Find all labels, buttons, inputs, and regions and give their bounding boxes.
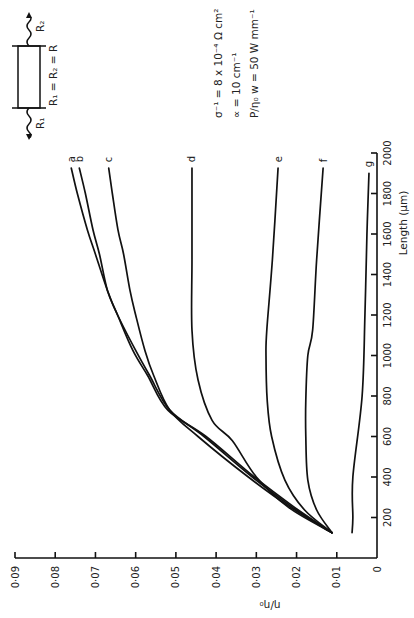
curve-e: [266, 168, 332, 533]
curve-f: [306, 168, 332, 533]
laser-cavity-diagram: R₁ R₂ R₁ = R₂ = R: [12, 12, 59, 140]
curve-c: [109, 168, 332, 533]
label-r-equation: R₁ = R₂ = R: [47, 45, 59, 106]
x-tick-label: 1400: [382, 262, 393, 287]
curve-label-e: e: [273, 156, 284, 162]
param-power: P/η₀ w = 50 W mm⁻¹: [248, 9, 260, 118]
label-r1: R₁: [34, 117, 46, 129]
param-absorption: ∝ = 10 cm⁻¹: [230, 53, 242, 118]
curve-label-c: c: [103, 157, 114, 163]
x-tick-label: 800: [382, 386, 393, 405]
y-tick-label: 0·02: [291, 566, 302, 588]
y-tick-label: 0·03: [251, 566, 262, 588]
x-tick-label: 400: [382, 467, 393, 486]
output-arrow-left: [27, 108, 31, 138]
curve-label-d: d: [186, 156, 197, 162]
y-tick-label: 0·07: [90, 566, 101, 588]
x-tick-label: 200: [382, 508, 393, 527]
curve-label-g: g: [363, 161, 374, 167]
label-r2: R₂: [34, 20, 46, 32]
curve-label-b: b: [74, 156, 85, 162]
curve-d: [192, 168, 332, 533]
curves: abcdefg: [66, 156, 375, 533]
curve-a: [71, 168, 332, 533]
y-tick-label: 0·09: [10, 566, 21, 588]
x-axis-label: Length (µm): [397, 191, 409, 256]
arrow-head-right-icon: [26, 12, 32, 18]
x-ticks: 200400600800100012001400160018002000: [371, 140, 393, 527]
cavity-box: [18, 46, 40, 108]
param-conductivity: σ⁻¹ = 8 x 10⁻⁴ Ω cm²: [212, 9, 224, 118]
y-tick-label: 0·08: [50, 566, 61, 588]
efficiency-vs-length-chart: 200400600800100012001400160018002000 00·…: [0, 0, 414, 618]
y-axis-label: η/η₀: [259, 600, 280, 612]
parameter-annotations: σ⁻¹ = 8 x 10⁻⁴ Ω cm² ∝ = 10 cm⁻¹ P/η₀ w …: [212, 9, 260, 118]
output-arrow-right: [27, 16, 31, 46]
x-tick-label: 2000: [382, 140, 393, 165]
y-tick-label: 0·01: [331, 566, 342, 588]
curve-g: [352, 173, 369, 532]
x-tick-label: 600: [382, 427, 393, 446]
x-tick-label: 1200: [382, 302, 393, 327]
axes: [15, 153, 377, 558]
x-tick-label: 1000: [382, 343, 393, 368]
rotated-figure: 200400600800100012001400160018002000 00·…: [0, 0, 414, 618]
y-tick-label: 0·05: [170, 566, 181, 588]
y-tick-label: 0·04: [211, 566, 222, 588]
y-tick-label: 0: [372, 566, 383, 572]
x-tick-label: 1800: [382, 181, 393, 206]
y-tick-label: 0·06: [130, 566, 141, 588]
x-tick-label: 1600: [382, 221, 393, 246]
curve-label-f: f: [318, 158, 329, 162]
